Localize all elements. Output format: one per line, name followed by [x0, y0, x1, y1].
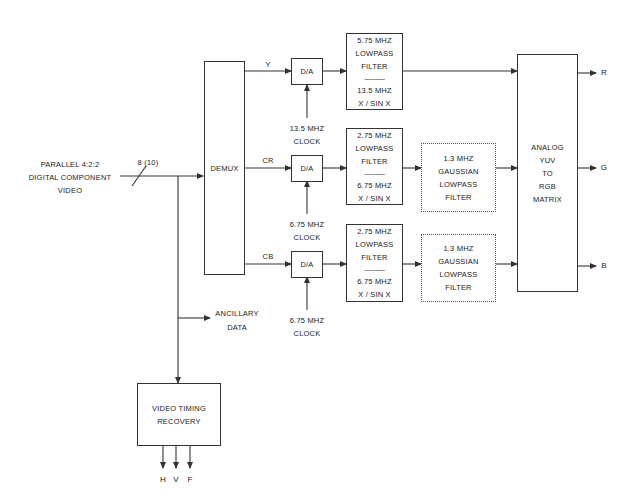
video-timing-recovery-block: VIDEO TIMING RECOVERY [137, 383, 221, 446]
y-channel-label: Y [258, 61, 278, 69]
cr-lowpass-filter-block: 2.75 MHZ LOWPASS FILTER ----------- 6.75… [346, 128, 403, 205]
cb-clock-label: 6.75 MHZ CLOCK [282, 314, 332, 340]
filter-divider: ----------- [364, 168, 384, 179]
output-r-label: R [598, 69, 610, 77]
cb-dac-block: D/A [291, 251, 323, 278]
filter-divider: ----------- [364, 73, 384, 84]
cr-dac-block: D/A [291, 155, 323, 182]
y-lowpass-filter-block: 5.75 MHZ LOWPASS FILTER ----------- 13.5… [346, 33, 403, 110]
y-clock-label: 13.5 MHZ CLOCK [282, 122, 332, 148]
f-output-label: F [184, 476, 196, 484]
input-label: PARALLEL 4:2:2 DIGITAL COMPONENT VIDEO [15, 158, 125, 197]
cb-gaussian-filter-block: 1.3 MHZ GAUSSIAN LOWPASS FILTER [421, 234, 496, 302]
ancillary-data-label: ANCILLARY DATA [212, 307, 262, 335]
cb-lowpass-filter-block: 2.75 MHZ LOWPASS FILTER ----------- 6.75… [346, 224, 403, 302]
cb-channel-label: CB [258, 253, 278, 261]
cr-channel-label: CR [258, 157, 278, 165]
bus-width-label: 8 (10) [128, 159, 168, 167]
output-g-label: G [598, 164, 610, 172]
h-output-label: H [157, 476, 169, 484]
output-b-label: B [598, 262, 610, 270]
y-dac-block: D/A [291, 58, 323, 85]
cr-clock-label: 6.75 MHZ CLOCK [282, 218, 332, 244]
demux-block: DEMUX [204, 61, 245, 275]
cr-gaussian-filter-block: 1.3 MHZ GAUSSIAN LOWPASS FILTER [421, 143, 496, 212]
v-output-label: V [170, 476, 182, 484]
rgb-matrix-block: ANALOG YUV TO RGB MATRIX [517, 54, 578, 292]
filter-divider: ----------- [364, 264, 384, 275]
